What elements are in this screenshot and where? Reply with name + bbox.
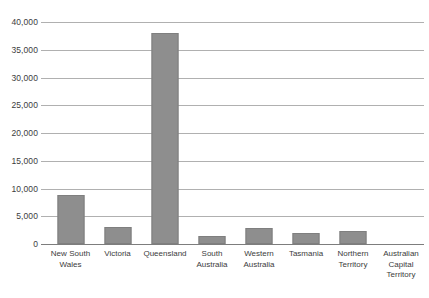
axis-baseline-0: 0 bbox=[47, 244, 424, 245]
xtick-label-south-australia: South Australia bbox=[189, 249, 235, 270]
bar-slot-queensland bbox=[141, 22, 188, 244]
xtick-label-new-south-wales: New South Wales bbox=[45, 249, 96, 270]
xtick-label-northern-territory: Northern Territory bbox=[328, 249, 378, 270]
ytick-label-5000: 5,000 bbox=[16, 212, 38, 221]
bar-chart: 40,000 35,000 30,000 25,000 20,000 15,00… bbox=[0, 0, 429, 298]
bar-western-australia[interactable] bbox=[246, 228, 273, 244]
bar-slot-south-australia bbox=[188, 22, 235, 244]
ytick-label-20000: 20,000 bbox=[11, 129, 38, 138]
xtick-label-australian-capital-territory: Australian Capital Territory bbox=[377, 249, 425, 281]
ytick-label-10000: 10,000 bbox=[11, 184, 38, 193]
bar-slot-tasmania bbox=[283, 22, 330, 244]
xtick-label-western-australia: Western Australia bbox=[234, 249, 284, 270]
ytick-label-25000: 25,000 bbox=[11, 101, 38, 110]
bar-slot-new-south-wales bbox=[47, 22, 94, 244]
ytick-label-30000: 30,000 bbox=[11, 73, 38, 82]
bar-slot-western-australia bbox=[236, 22, 283, 244]
bar-slot-australian-capital-territory bbox=[377, 22, 424, 244]
ytick-label-15000: 15,000 bbox=[11, 156, 38, 165]
bar-queensland[interactable] bbox=[151, 33, 178, 244]
bar-victoria[interactable] bbox=[104, 227, 131, 244]
bar-new-south-wales[interactable] bbox=[57, 195, 84, 244]
plot-area: 40,000 35,000 30,000 25,000 20,000 15,00… bbox=[47, 22, 424, 244]
bar-south-australia[interactable] bbox=[198, 236, 225, 244]
xtick-label-victoria: Victoria bbox=[92, 249, 143, 260]
bars-layer bbox=[47, 22, 424, 244]
bar-slot-victoria bbox=[94, 22, 141, 244]
ytick-label-0: 0 bbox=[33, 240, 38, 249]
xtick-label-tasmania: Tasmania bbox=[281, 249, 331, 260]
ytick-label-35000: 35,000 bbox=[11, 45, 38, 54]
xtick-label-queensland: Queensland bbox=[138, 249, 192, 260]
x-axis-labels: New South Wales Victoria Queensland Sout… bbox=[47, 249, 424, 295]
ytick-mark-0 bbox=[41, 244, 47, 245]
bar-slot-northern-territory bbox=[330, 22, 377, 244]
ytick-label-40000: 40,000 bbox=[11, 18, 38, 27]
bar-tasmania[interactable] bbox=[293, 233, 320, 244]
bar-northern-territory[interactable] bbox=[340, 231, 367, 244]
